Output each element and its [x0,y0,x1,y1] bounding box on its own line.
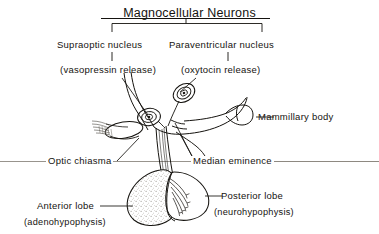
label-adenohypophysis: (adenohypophysis) [24,218,106,227]
label-anterior-lobe: Anterior lobe [37,201,94,211]
diagram-canvas: Magnocellular Neurons Supraoptic nucleus… [0,0,379,234]
optic-chiasma [92,119,144,141]
figure-title: Magnocellular Neurons [123,7,256,20]
leader-paraventricular [180,78,196,92]
label-neurohypophysis: (neurohypophysis) [214,208,294,217]
label-stubs [112,52,228,61]
label-median-eminence: Median eminence [191,156,274,166]
label-paraventricular-nucleus: Paraventricular nucleus [169,40,274,50]
paraventricular-soma [170,80,199,107]
label-optic-chiasma: Optic chiasma [46,156,113,166]
label-vasopressin-release: (vasopressin release) [60,65,156,75]
mammillary-body-structure [226,105,253,125]
posterior-lobe-shape [166,172,209,220]
figure-title-wrap: Magnocellular Neurons [0,3,379,21]
leader-optic-chiasma [117,138,139,161]
label-oxytocin-release: (oxytocin release) [181,65,260,75]
label-mammillary-body: Mammillary body [258,112,334,122]
leader-median-eminence-b [175,123,193,158]
supraoptic-axon [158,121,165,128]
label-supraoptic-nucleus: Supraoptic nucleus [57,40,142,50]
pituitary-gland [127,170,209,226]
label-posterior-lobe: Posterior lobe [221,191,283,201]
